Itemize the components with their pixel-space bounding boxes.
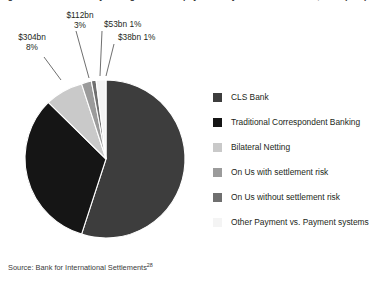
legend-label-on-us-without-settlement-risk: On Us without settlement risk — [231, 192, 340, 202]
legend-label-bilateral-netting: Bilateral Netting — [231, 142, 290, 152]
leader-line-on-us-with — [76, 31, 89, 78]
legend-item-cls-bank[interactable]: CLS Bank — [213, 92, 387, 117]
legend-label-cls-bank: CLS Bank — [231, 92, 269, 102]
callout-bilateral-netting-percent: 8% — [8, 43, 56, 53]
legend-item-on-us-with-settlement-risk[interactable]: On Us with settlement risk — [213, 167, 387, 192]
leader-line-on-us-without — [100, 31, 102, 76]
legend-swatch-on-us-without-settlement-risk-icon — [213, 193, 222, 202]
legend-swatch-other-payment-vs-payment-systems-icon — [213, 218, 222, 227]
leader-line-bilateral-netting — [44, 57, 61, 80]
legend-label-other-payment-vs-payment-systems: Other Payment vs. Payment systems — [231, 217, 369, 227]
legend-item-other-payment-vs-payment-systems[interactable]: Other Payment vs. Payment systems — [213, 217, 387, 242]
legend-item-on-us-without-settlement-risk[interactable]: On Us without settlement risk — [213, 192, 387, 217]
callout-bilateral-netting-value: $304bn — [18, 32, 46, 42]
callout-other-payment-vs-payment: $38bn 1% — [118, 33, 155, 43]
chart-plot-area: $304bn 8% $112bn 3% $53bn 1% $38bn 1% CL… — [0, 0, 389, 286]
legend-label-on-us-with-settlement-risk: On Us with settlement risk — [231, 167, 328, 177]
legend-swatch-traditional-correspondent-banking-icon — [213, 118, 222, 127]
legend-item-bilateral-netting[interactable]: Bilateral Netting — [213, 142, 387, 167]
source-note: Source: Bank for International Settlemen… — [8, 263, 153, 272]
callout-on-us-without-settlement-risk: $53bn 1% — [104, 20, 141, 30]
legend-swatch-on-us-with-settlement-risk-icon — [213, 168, 222, 177]
callout-on-us-without-value: $53bn 1% — [104, 19, 141, 29]
legend-label-traditional-correspondent-banking: Traditional Correspondent Banking — [231, 117, 360, 127]
callout-other-pvp-value: $38bn 1% — [118, 32, 155, 42]
source-note-text: Source: Bank for International Settlemen… — [8, 263, 147, 272]
callout-on-us-with-value: $112bn — [66, 10, 93, 20]
callout-on-us-with-percent: 3% — [58, 21, 102, 31]
leader-line-other-pvp — [106, 44, 114, 76]
legend-swatch-bilateral-netting-icon — [213, 143, 222, 152]
source-footnote-marker: 28 — [147, 262, 153, 268]
callout-on-us-with-settlement-risk: $112bn 3% — [58, 11, 102, 30]
chart-legend: CLS Bank Traditional Correspondent Banki… — [213, 92, 387, 242]
legend-swatch-cls-bank-icon — [213, 93, 222, 102]
callout-bilateral-netting: $304bn 8% — [8, 33, 56, 52]
legend-item-traditional-correspondent-banking[interactable]: Traditional Correspondent Banking — [213, 117, 387, 142]
